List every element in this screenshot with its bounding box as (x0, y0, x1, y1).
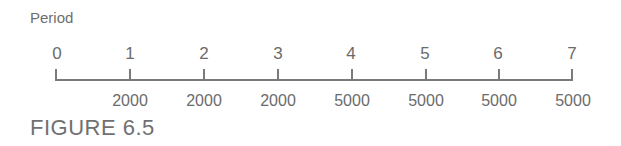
tick-mark-4 (351, 69, 353, 80)
period-label-1: 1 (115, 44, 145, 64)
tick-mark-2 (203, 69, 205, 80)
period-label-4: 4 (336, 44, 366, 64)
period-label-6: 6 (483, 44, 513, 64)
period-label-5: 5 (410, 44, 440, 64)
cash-flow-value-3: 2000 (248, 92, 308, 110)
period-label-3: 3 (263, 44, 293, 64)
timeline-axis-line (55, 79, 573, 81)
cash-flow-value-5: 5000 (396, 92, 456, 110)
period-label-0: 0 (42, 44, 72, 64)
period-label-7: 7 (557, 44, 587, 64)
tick-mark-0 (55, 69, 57, 80)
tick-mark-5 (425, 69, 427, 80)
tick-mark-3 (277, 69, 279, 80)
cash-flow-value-7: 5000 (543, 92, 603, 110)
tick-mark-7 (571, 69, 573, 80)
cash-flow-value-6: 5000 (469, 92, 529, 110)
tick-mark-1 (129, 69, 131, 80)
period-label-2: 2 (189, 44, 219, 64)
cash-flow-value-2: 2000 (174, 92, 234, 110)
period-axis-title: Period (30, 9, 73, 26)
figure-caption: FIGURE 6.5 (30, 115, 155, 141)
cash-flow-value-4: 5000 (322, 92, 382, 110)
tick-mark-6 (498, 69, 500, 80)
cash-flow-value-1: 2000 (100, 92, 160, 110)
